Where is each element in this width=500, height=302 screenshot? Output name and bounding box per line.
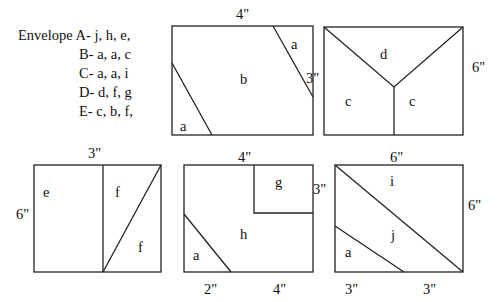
piece-label: d [380, 46, 388, 62]
piece-label: b [240, 71, 247, 87]
dim-label: 4" [236, 6, 249, 22]
dim-label: 3" [423, 281, 436, 297]
dim-label: 6" [390, 149, 403, 165]
panel-5: 6" 6" 3" 3" i j a [335, 149, 481, 297]
dim-label: 6" [472, 59, 485, 75]
piece-label: c [409, 93, 415, 109]
piece-label: a [291, 36, 298, 52]
dim-label: 4" [273, 281, 286, 297]
dim-label: 3" [313, 181, 326, 197]
piece-label: f [138, 239, 143, 255]
panel-3: 3" 6" e f f [16, 145, 161, 272]
dim-label: 3" [306, 70, 319, 86]
panel-1: 4" 3" a b a [172, 6, 319, 135]
piece-label: g [275, 174, 282, 190]
piece-label: f [115, 184, 120, 200]
dim-label: 2" [204, 281, 217, 297]
dim-label: 3" [345, 281, 358, 297]
piece-label: e [43, 184, 49, 200]
dim-label: 6" [468, 197, 481, 213]
piece-label: a [193, 247, 200, 263]
dim-label: 4" [238, 149, 251, 165]
piece-label: a [180, 118, 187, 134]
piece-label: i [390, 173, 394, 189]
dim-label: 3" [88, 145, 101, 161]
piece-label: a [345, 244, 352, 260]
piece-label: j [390, 227, 395, 243]
dim-label: 6" [16, 206, 29, 222]
panel-4: 4" 3" 2" 4" g h a [184, 149, 326, 297]
piece-label: c [345, 93, 351, 109]
piece-label: h [240, 226, 248, 242]
panel-2: 6" d c c [324, 27, 485, 135]
diagram-canvas: 4" 3" a b a 6" d c c 3" 6" e f f [0, 0, 500, 302]
